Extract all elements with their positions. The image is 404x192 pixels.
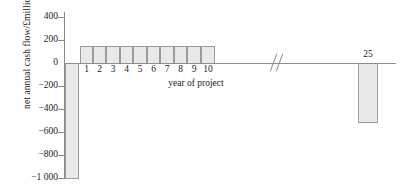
- bar-year-3: [106, 46, 120, 64]
- x-tick-label-8: 8: [174, 65, 187, 75]
- bar-year-8: [174, 46, 187, 64]
- x-tick-label-5: 5: [133, 65, 147, 75]
- x-tick-label-3: 3: [106, 65, 120, 75]
- bar-year-25: [358, 63, 378, 123]
- bar-chart: net annual cash flow/£millions 400 200 0…: [0, 0, 404, 192]
- bar-year-4: [120, 46, 133, 64]
- y-tick-label-0: 0: [6, 58, 58, 68]
- x-axis-title: year of project: [136, 78, 256, 88]
- y-tick-label-neg800: −800: [6, 150, 58, 160]
- y-tick-label-neg400: −400: [6, 104, 58, 114]
- bar-year-5: [133, 46, 147, 64]
- x-tick-label-9: 9: [187, 65, 201, 75]
- bar-year-2: [93, 46, 106, 64]
- x-tick-label-2: 2: [93, 65, 106, 75]
- y-tick-label-neg1000: −1 000: [6, 173, 58, 183]
- x-tick-label-6: 6: [147, 65, 160, 75]
- bar-year-1: [80, 46, 93, 64]
- x-tick-label-7: 7: [160, 65, 174, 75]
- axis-break-icon: [268, 53, 288, 73]
- y-tick-label-400: 400: [6, 12, 58, 22]
- y-tick-label-200: 200: [6, 35, 58, 45]
- x-tick-label-4: 4: [120, 65, 133, 75]
- bar-year-9: [187, 46, 201, 64]
- x-tick-label-10: 10: [200, 65, 216, 75]
- y-axis-line: [64, 12, 65, 179]
- bar-year-6: [147, 46, 160, 64]
- bar-year-10: [201, 46, 215, 64]
- bar-year-7: [160, 46, 174, 64]
- y-tick-label-neg200: −200: [6, 81, 58, 91]
- x-tick-label-25: 25: [358, 50, 378, 60]
- x-tick-label-1: 1: [80, 65, 93, 75]
- y-tick-label-neg600: −600: [6, 127, 58, 137]
- bar-year-0: [65, 63, 79, 179]
